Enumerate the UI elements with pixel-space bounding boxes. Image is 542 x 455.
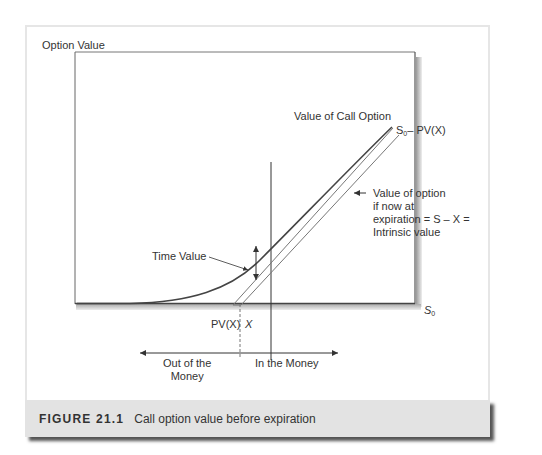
time-value-label: Time Value: [152, 250, 206, 263]
figure-caption-bar: FIGURE 21.1 Call option value before exp…: [25, 400, 490, 437]
pvx-label: PV(X): [211, 318, 240, 331]
plot-area: [75, 52, 422, 310]
x-label: X: [245, 318, 252, 331]
x-axis-label: S0: [424, 304, 435, 320]
out-of-money-label: Out of the Money: [163, 357, 211, 383]
s0-pv-label: S0– PV(X): [396, 124, 446, 140]
time-value-pointer: [209, 257, 248, 270]
s0-minus-pvx-line: [233, 128, 393, 305]
in-the-money-label: In the Money: [255, 357, 319, 370]
figure-caption: Call option value before expiration: [134, 412, 315, 426]
intrinsic-value-label: Value of option if now at expiration = S…: [373, 187, 470, 239]
y-axis-label: Option Value: [42, 39, 105, 52]
call-value-label: Value of Call Option: [294, 110, 391, 123]
call-value-curve: [77, 127, 392, 304]
figure-number: FIGURE 21.1: [39, 412, 124, 426]
